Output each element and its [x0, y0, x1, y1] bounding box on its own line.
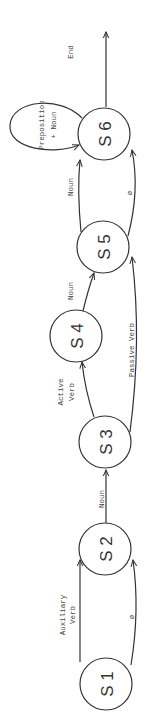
label-s2-s3-noun: Noun — [98, 490, 106, 508]
svg-text:S 4: S 4 — [68, 323, 87, 349]
state-s3: S 3 — [79, 416, 131, 468]
state-s2: S 2 — [79, 523, 131, 575]
label-preposition-1: Preposition — [38, 100, 46, 150]
state-s1: S 1 — [80, 658, 132, 710]
label-s1-s2-null: ø — [128, 614, 136, 619]
state-s6: S 6 — [78, 108, 130, 160]
svg-text:S 6: S 6 — [96, 121, 115, 147]
label-active-verb-1: Active — [57, 378, 65, 405]
label-s5-s6-noun: Noun — [67, 178, 75, 196]
edge-s5-s6-noun — [79, 160, 81, 232]
edge-s4-s5-noun — [83, 273, 94, 311]
label-active-verb-2: Verb — [68, 383, 76, 401]
edge-s3-s4-active-verb — [82, 362, 94, 417]
label-s5-s6-null: ø — [126, 190, 134, 195]
edge-s1-s2-null — [131, 560, 136, 665]
svg-text:S 5: S 5 — [95, 234, 114, 260]
state-transition-diagram: S 1 S 2 S 3 S 4 S 5 S 6 Auxiliary Verb ø… — [0, 0, 152, 728]
label-s4-s5-noun: Noun — [67, 282, 75, 300]
svg-text:S 3: S 3 — [97, 429, 116, 455]
svg-text:S 1: S 1 — [98, 671, 117, 697]
svg-text:S 2: S 2 — [97, 536, 116, 562]
state-s5: S 5 — [77, 221, 129, 273]
label-end: End — [67, 45, 75, 59]
label-auxiliary-verb-1: Auxiliary — [59, 594, 67, 635]
label-auxiliary-verb-2: Verb — [69, 606, 77, 624]
label-passive-verb: Passive Verb — [128, 323, 136, 377]
state-s4: S 4 — [50, 310, 102, 362]
label-preposition-2: + Noun — [50, 111, 58, 138]
